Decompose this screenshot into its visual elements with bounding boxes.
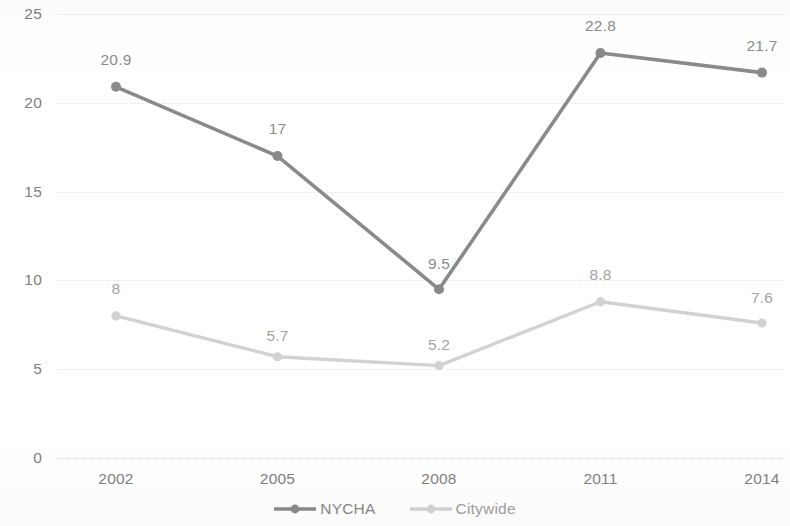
chart-legend: NYCHA Citywide bbox=[0, 500, 790, 518]
nycha-legend-marker-icon bbox=[274, 502, 316, 516]
legend-label-citywide: Citywide bbox=[456, 500, 516, 518]
citywide-point-label-2008: 5.2 bbox=[399, 336, 479, 354]
x-axis-tick-2002: 2002 bbox=[71, 470, 161, 488]
citywide-point-2005 bbox=[273, 352, 282, 361]
citywide-point-label-2011: 8.8 bbox=[561, 266, 641, 284]
x-axis-tick-2008: 2008 bbox=[394, 470, 484, 488]
legend-item-citywide[interactable]: Citywide bbox=[410, 500, 516, 518]
nycha-point-label-2005: 17 bbox=[238, 120, 318, 138]
y-axis-tick-5: 5 bbox=[2, 360, 42, 378]
x-axis-tick-2005: 2005 bbox=[233, 470, 323, 488]
x-axis-tick-2014: 2014 bbox=[717, 470, 790, 488]
nycha-point-2014 bbox=[757, 68, 767, 78]
y-axis-tick-25: 25 bbox=[2, 5, 42, 23]
citywide-point-label-2002: 8 bbox=[76, 280, 156, 298]
y-axis-tick-15: 15 bbox=[2, 183, 42, 201]
plot-area: 25 20 15 10 5 0 20.9 17 9.5 22.8 21.7 8 … bbox=[58, 8, 784, 458]
citywide-point-2002 bbox=[111, 311, 120, 320]
citywide-point-2011 bbox=[596, 297, 605, 306]
y-axis-tick-20: 20 bbox=[2, 94, 42, 112]
nycha-point-label-2002: 20.9 bbox=[76, 51, 156, 69]
citywide-point-label-2014: 7.6 bbox=[722, 289, 790, 307]
nycha-point-label-2011: 22.8 bbox=[561, 17, 641, 35]
nycha-point-label-2008: 9.5 bbox=[399, 255, 479, 273]
gridline-0 bbox=[58, 458, 784, 459]
nycha-point-2008 bbox=[434, 284, 444, 294]
x-axis-tick-2011: 2011 bbox=[556, 470, 646, 488]
citywide-markers bbox=[111, 297, 766, 370]
citywide-point-2014 bbox=[757, 318, 766, 327]
nycha-point-label-2014: 21.7 bbox=[722, 37, 790, 55]
line-chart: 25 20 15 10 5 0 20.9 17 9.5 22.8 21.7 8 … bbox=[0, 0, 790, 526]
nycha-point-2002 bbox=[111, 82, 121, 92]
nycha-point-2005 bbox=[273, 151, 283, 161]
legend-label-nycha: NYCHA bbox=[320, 500, 375, 518]
y-axis-tick-10: 10 bbox=[2, 271, 42, 289]
nycha-line bbox=[116, 53, 762, 289]
citywide-point-label-2005: 5.7 bbox=[238, 327, 318, 345]
y-axis-tick-0: 0 bbox=[2, 449, 42, 467]
series-layer bbox=[58, 8, 784, 458]
citywide-legend-marker-icon bbox=[410, 502, 452, 516]
citywide-line bbox=[116, 302, 762, 366]
citywide-point-2008 bbox=[434, 361, 443, 370]
legend-item-nycha[interactable]: NYCHA bbox=[274, 500, 375, 518]
nycha-point-2011 bbox=[596, 48, 606, 58]
